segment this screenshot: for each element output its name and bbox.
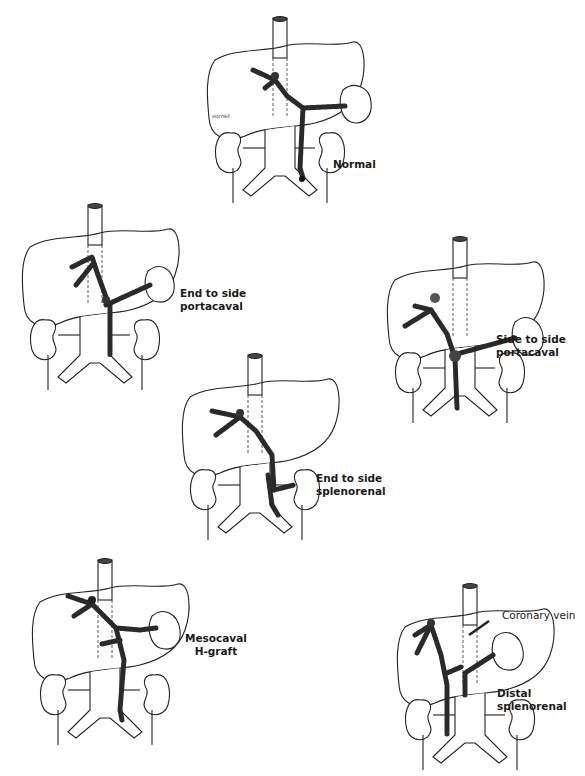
- label-distal-splenorenal: Distal splenorenal: [497, 687, 567, 713]
- label-line: splenorenal: [497, 700, 567, 713]
- panel-end-to-side-splenorenal: End to side splenorenal: [170, 355, 380, 525]
- panel-end-to-side-portacaval: End to side portacaval: [10, 205, 230, 375]
- panel-normal: Hornsa Normal: [195, 18, 375, 203]
- label-line: Distal: [497, 687, 567, 700]
- label-line: H-graft: [185, 645, 247, 658]
- panel-distal-splenorenal: Coronary vein Distal splenorenal: [385, 585, 585, 770]
- diagram-mesocaval-h-graft: [20, 560, 200, 745]
- label-line: portacaval: [180, 300, 246, 313]
- diagram-end-to-side-portacaval: [10, 205, 190, 390]
- annotation-text: Coronary vein: [502, 609, 575, 621]
- diagram-end-to-side-splenorenal: [170, 355, 350, 540]
- label-normal: Normal: [333, 158, 376, 171]
- label-line: Mesocaval: [185, 632, 247, 645]
- artist-signature: Hornsa: [212, 112, 230, 119]
- panel-side-to-side-portacaval: Side to side portacaval: [375, 238, 585, 438]
- label-line: End to side: [180, 287, 246, 300]
- label-side-to-side-portacaval: Side to side portacaval: [496, 333, 566, 359]
- label-line: End to side: [316, 472, 386, 485]
- label-end-to-side-splenorenal: End to side splenorenal: [316, 472, 386, 498]
- annotation-coronary-vein: Coronary vein: [502, 609, 575, 622]
- label-line: portacaval: [496, 346, 566, 359]
- diagram-normal: [195, 18, 375, 203]
- label-end-to-side-portacaval: End to side portacaval: [180, 287, 246, 313]
- panel-mesocaval-h-graft: Mesocaval H-graft: [20, 560, 230, 740]
- label-line: splenorenal: [316, 485, 386, 498]
- diagram-side-to-side-portacaval: [375, 238, 555, 423]
- label-mesocaval-h-graft: Mesocaval H-graft: [185, 632, 247, 658]
- label-line: Side to side: [496, 333, 566, 346]
- label-line: Normal: [333, 158, 376, 171]
